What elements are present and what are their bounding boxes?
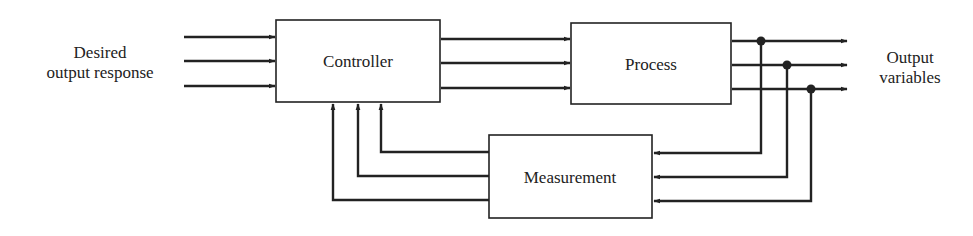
feedback-line-1 — [381, 104, 489, 152]
output-label-line1: Output — [886, 48, 934, 67]
controller-label: Controller — [323, 52, 393, 71]
junction-dot-1 — [757, 37, 766, 46]
block-diagram: Desired output response Controller Proce… — [0, 0, 973, 236]
input-arrows — [184, 37, 275, 86]
input-label-line2: output response — [46, 63, 153, 82]
measurement-label: Measurement — [524, 168, 617, 187]
output-label: Output variables — [879, 48, 940, 87]
junction-dot-2 — [783, 61, 792, 70]
measurement-block: Measurement — [489, 135, 652, 218]
input-label-line1: Desired — [74, 43, 127, 62]
feedback-line-2 — [358, 104, 489, 176]
controller-block: Controller — [276, 20, 440, 102]
input-label: Desired output response — [46, 43, 153, 82]
controller-feedback-lines — [333, 104, 489, 200]
process-block: Process — [571, 23, 731, 104]
process-label: Process — [625, 55, 677, 74]
junction-dot-3 — [807, 85, 816, 94]
controller-to-process-arrows — [441, 39, 570, 88]
output-label-line2: variables — [879, 68, 940, 87]
